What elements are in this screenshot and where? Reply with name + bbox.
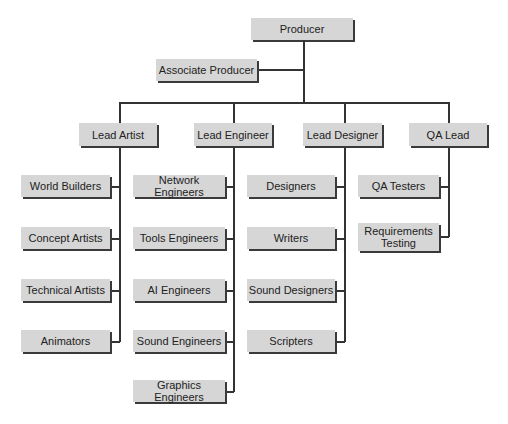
connector xyxy=(227,290,234,292)
node-qa-testers: QA Testers xyxy=(358,175,439,197)
node-world-builders: World Builders xyxy=(21,175,110,197)
node-requirements-testing: Requirements Testing xyxy=(358,223,439,251)
connector xyxy=(259,69,304,71)
connector xyxy=(344,148,346,342)
node-network-engineers: Network Engineers xyxy=(133,175,225,197)
node-lead-engineer: Lead Engineer xyxy=(194,123,272,146)
connector xyxy=(441,236,449,238)
node-sound-designers: Sound Designers xyxy=(247,279,335,301)
node-technical-artists: Technical Artists xyxy=(21,279,110,301)
node-scripters: Scripters xyxy=(247,330,335,352)
node-lead-designer: Lead Designer xyxy=(303,123,382,146)
connector xyxy=(448,148,450,237)
connector xyxy=(233,102,235,123)
node-writers: Writers xyxy=(247,227,335,249)
node-lead-artist: Lead Artist xyxy=(79,123,157,146)
connector xyxy=(441,186,449,188)
connector xyxy=(227,186,234,188)
node-producer: Producer xyxy=(251,18,353,40)
connector xyxy=(303,40,305,102)
node-animators: Animators xyxy=(21,330,110,352)
connector xyxy=(337,290,345,292)
node-designers: Designers xyxy=(247,175,335,197)
connector xyxy=(112,186,120,188)
connector xyxy=(227,391,234,393)
connector xyxy=(337,341,345,343)
connector xyxy=(448,102,450,123)
node-tools-engineers: Tools Engineers xyxy=(133,227,225,249)
connector xyxy=(119,102,121,123)
connector-bus xyxy=(119,102,449,104)
node-graphics-engineers: Graphics Engineers xyxy=(133,380,225,402)
connector xyxy=(112,290,120,292)
node-concept-artists: Concept Artists xyxy=(21,227,110,249)
connector xyxy=(337,186,345,188)
connector xyxy=(112,238,120,240)
connector xyxy=(337,238,345,240)
connector xyxy=(119,148,121,342)
connector xyxy=(233,148,235,392)
node-associate-producer: Associate Producer xyxy=(156,59,257,81)
connector xyxy=(112,341,120,343)
connector xyxy=(227,238,234,240)
connector xyxy=(227,341,234,343)
connector xyxy=(344,102,346,123)
node-ai-engineers: AI Engineers xyxy=(133,279,225,301)
node-qa-lead: QA Lead xyxy=(409,123,487,146)
node-sound-engineers: Sound Engineers xyxy=(133,330,225,352)
